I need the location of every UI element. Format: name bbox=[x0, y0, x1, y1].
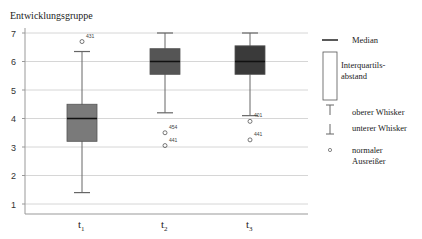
legend-iqr-label: abstand bbox=[341, 71, 368, 81]
y-tick-label: 6 bbox=[11, 57, 16, 67]
outlier-marker bbox=[80, 40, 84, 44]
legend-upper-whisker-label: oberer Whisker bbox=[352, 107, 405, 117]
legend-lower-whisker-label: unterer Whisker bbox=[352, 123, 407, 133]
y-tick-label: 4 bbox=[11, 114, 16, 124]
y-tick-label: 2 bbox=[11, 171, 16, 181]
x-category-label: t1 bbox=[78, 218, 85, 233]
x-category-label: t3 bbox=[246, 218, 253, 233]
box-plot-chart: Entwicklungsgruppe1234567431t1454441t240… bbox=[0, 0, 422, 239]
legend-median-label: Median bbox=[352, 35, 379, 45]
box-t3: 401441 bbox=[235, 33, 265, 142]
iqr-box bbox=[67, 104, 97, 141]
legend-outlier-label: normaler bbox=[352, 145, 383, 155]
legend-outlier-label: Ausreißer bbox=[352, 156, 386, 166]
outlier-marker bbox=[248, 119, 252, 123]
outlier-label: 431 bbox=[86, 33, 95, 39]
y-tick-label: 1 bbox=[11, 200, 16, 210]
outlier-marker bbox=[163, 131, 167, 135]
y-tick-label: 7 bbox=[11, 29, 16, 39]
x-category-label: t2 bbox=[161, 218, 168, 233]
legend-box-icon bbox=[323, 52, 337, 100]
outlier-label: 441 bbox=[254, 131, 263, 137]
legend-outlier-icon bbox=[328, 148, 331, 151]
y-tick-label: 5 bbox=[11, 86, 16, 96]
y-tick-label: 3 bbox=[11, 143, 16, 153]
outlier-label: 401 bbox=[254, 112, 263, 118]
outlier-label: 441 bbox=[169, 137, 178, 143]
legend-iqr-label: Interquartils- bbox=[341, 60, 386, 70]
legend: MedianInterquartils-abstandoberer Whiske… bbox=[322, 35, 407, 166]
outlier-label: 454 bbox=[169, 124, 178, 130]
iqr-box bbox=[235, 46, 265, 74]
chart-title: Entwicklungsgruppe bbox=[10, 10, 93, 21]
outlier-marker bbox=[248, 138, 252, 142]
box-t1: 431 bbox=[67, 33, 97, 193]
